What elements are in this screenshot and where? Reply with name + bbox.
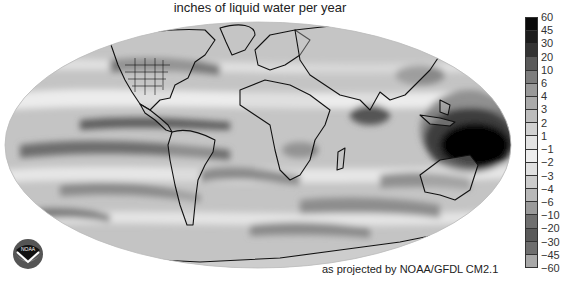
colorbar-swatch	[526, 97, 537, 110]
colorbar-label: 20	[541, 52, 553, 63]
colorbar-label: −30	[541, 237, 560, 248]
colorbar-swatch	[526, 215, 537, 228]
colorbar-label: 30	[541, 38, 553, 49]
colorbar-swatch	[526, 176, 537, 189]
colorbar-swatch	[526, 242, 537, 255]
colorbar-label: 60	[541, 12, 553, 23]
colorbar-swatch	[526, 31, 537, 44]
precipitation-map	[0, 0, 520, 282]
colorbar-swatch	[526, 57, 537, 70]
colorbar-swatch	[526, 84, 537, 97]
colorbar-label: −4	[541, 184, 554, 195]
colorbar-label: 1	[541, 131, 547, 142]
colorbar-swatch	[526, 71, 537, 84]
colorbar-label: 45	[541, 25, 553, 36]
colorbar-label: 4	[541, 91, 547, 102]
colorbar-swatch	[526, 255, 537, 267]
colorbar-swatch	[526, 123, 537, 136]
colorbar-label: −20	[541, 223, 560, 234]
colorbar-swatch	[526, 44, 537, 57]
colorbar-label: −6	[541, 197, 554, 208]
colorbar-swatch	[526, 136, 537, 149]
colorbar-label: −60	[541, 263, 560, 274]
colorbar-label: 2	[541, 118, 547, 129]
colorbar-label: −1	[541, 144, 554, 155]
colorbar-swatch	[526, 150, 537, 163]
colorbar-swatch	[526, 202, 537, 215]
colorbar-swatch	[526, 163, 537, 176]
colorbar-label: 3	[541, 104, 547, 115]
credit-text: as projected by NOAA/GFDL CM2.1	[322, 263, 498, 275]
colorbar-label: −2	[541, 157, 554, 168]
colorbar-label: −3	[541, 171, 554, 182]
colorbar-swatch	[526, 110, 537, 123]
map-field	[0, 0, 520, 282]
colorbar	[525, 17, 538, 268]
colorbar-swatch	[526, 189, 537, 202]
colorbar-swatch	[526, 229, 537, 242]
colorbar-label: 6	[541, 78, 547, 89]
logo-text: NOAA	[21, 246, 36, 252]
noaa-logo-icon: NOAA	[12, 238, 44, 270]
colorbar-label: −45	[541, 250, 560, 261]
colorbar-label: −10	[541, 210, 560, 221]
colorbar-label: 10	[541, 65, 553, 76]
colorbar-swatch	[526, 18, 537, 31]
